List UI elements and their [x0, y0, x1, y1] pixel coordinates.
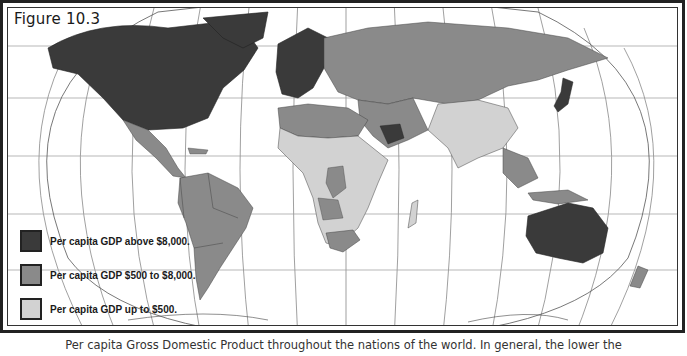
- legend-item-low: Per capita GDP up to $500.: [20, 292, 195, 326]
- figure-caption: Per capita Gross Domestic Product throug…: [0, 338, 687, 352]
- map-panel: Figure 10.3 Per capita GDP above $8,000.…: [7, 7, 678, 326]
- legend-swatch-high: [20, 230, 42, 252]
- figure-title: Figure 10.3: [14, 10, 100, 28]
- legend-label-low: Per capita GDP up to $500.: [50, 304, 177, 315]
- legend-swatch-middle: [20, 264, 42, 286]
- legend-item-middle: Per capita GDP $500 to $8,000.: [20, 258, 195, 292]
- map-legend: Per capita GDP above $8,000. Per capita …: [20, 224, 195, 326]
- figure-frame: Figure 10.3 Per capita GDP above $8,000.…: [0, 0, 685, 333]
- legend-swatch-low: [20, 298, 42, 320]
- legend-label-middle: Per capita GDP $500 to $8,000.: [50, 270, 195, 281]
- legend-label-high: Per capita GDP above $8,000.: [50, 236, 190, 247]
- legend-item-high: Per capita GDP above $8,000.: [20, 224, 195, 258]
